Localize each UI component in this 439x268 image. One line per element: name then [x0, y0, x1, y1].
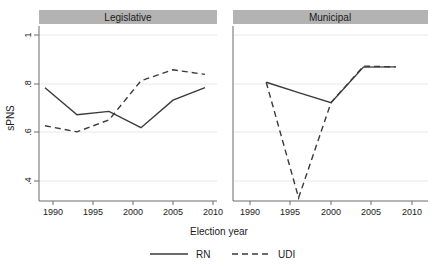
y-axis-title: sPNS — [5, 105, 16, 131]
panel-title-legislative: Legislative — [104, 12, 152, 23]
x-tick-label-2005-left: 2005 — [163, 207, 183, 217]
y-tick-label-.4: .4 — [23, 177, 33, 185]
panel-header-legislative: Legislative — [39, 10, 217, 24]
legend-label-rn: RN — [196, 249, 210, 260]
x-tick-label-2000-right: 2000 — [321, 207, 341, 217]
x-tick-label-2000-left: 2000 — [123, 207, 143, 217]
x-tick-label-2005-right: 2005 — [361, 207, 381, 217]
x-tick-label-2010-left: 2010 — [203, 207, 223, 217]
chart-figure: Legislative Municipal 1 — [0, 0, 439, 268]
x-tick-label-2010-right: 2010 — [402, 207, 422, 217]
panel-header-municipal: Municipal — [233, 10, 428, 24]
x-tick-label-1990-right: 1990 — [240, 207, 260, 217]
x-tick-label-1995-right: 1995 — [280, 207, 300, 217]
legend-label-udi: UDI — [278, 249, 295, 260]
chart-svg: Legislative Municipal 1 — [0, 0, 439, 268]
y-tick-label-1: 1 — [23, 32, 33, 37]
x-tick-label-1995-left: 1995 — [83, 207, 103, 217]
panel-title-municipal: Municipal — [309, 12, 351, 23]
y-tick-label-.6: .6 — [23, 128, 33, 136]
x-axis-title: Election year — [190, 226, 248, 237]
x-tick-label-1990-left: 1990 — [43, 207, 63, 217]
y-tick-label-.8: .8 — [23, 80, 33, 88]
